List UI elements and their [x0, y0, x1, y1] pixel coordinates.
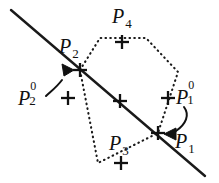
label-p1-zero-subscript: 1: [187, 93, 194, 106]
label-p2-zero-scripts: 02: [30, 86, 37, 111]
label-p4-base: P: [112, 5, 124, 27]
label-p4: P4: [112, 6, 131, 26]
label-p1-subscript: 1: [188, 141, 195, 156]
label-p1-zero-superscript: 0: [188, 79, 195, 91]
label-p3-subscript: 3: [122, 143, 129, 158]
dotted-hexagon-outline: [80, 38, 178, 163]
label-p3-base: P: [109, 132, 121, 154]
label-p2-zero-superscript: 0: [30, 80, 37, 92]
label-p1-zero-scripts: 01: [188, 85, 195, 110]
marker-p3-bottom: [114, 156, 128, 170]
label-p2-subscript: 2: [72, 46, 79, 61]
arrow-p2-zero-to-p2-head: [62, 64, 74, 76]
marker-p2-zero: [61, 91, 75, 105]
marker-p4-top: [115, 35, 129, 49]
arrow-p1-zero-to-p1-curve: [176, 107, 187, 131]
label-p3: P3: [109, 133, 128, 153]
marker-p1-zero: [161, 91, 175, 105]
label-p1-zero: P01: [176, 84, 195, 109]
label-p1: P1: [175, 131, 194, 151]
arrow-p2-zero-to-p2-curve: [46, 80, 62, 96]
label-p4-subscript: 4: [125, 16, 132, 31]
label-p2-zero: P02: [18, 85, 37, 110]
marker-p1-vertex: [151, 126, 165, 140]
label-p1-base: P: [175, 130, 187, 152]
label-p2-base: P: [59, 35, 71, 57]
label-p2: P2: [59, 36, 78, 56]
label-p2-zero-subscript: 2: [29, 94, 36, 107]
figure-canvas: P2 P4 P3 P1 P02 P01: [0, 0, 219, 183]
